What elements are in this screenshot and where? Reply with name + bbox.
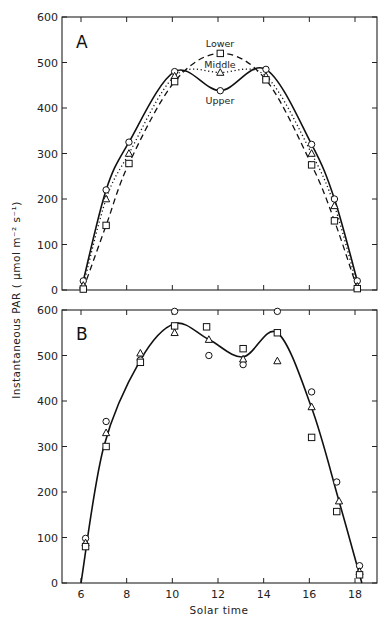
x-tick-label: 16 (302, 588, 316, 601)
y-tick-label: 200 (37, 193, 58, 206)
y-tick-label: 600 (37, 304, 58, 317)
circle-marker (206, 352, 212, 358)
x-tick-label: 12 (211, 588, 225, 601)
y-tick-label: 400 (37, 102, 58, 115)
x-tick-label: 6 (78, 588, 85, 601)
y-tick-label: 100 (37, 532, 58, 545)
triangle-marker (137, 349, 144, 356)
square-marker (308, 434, 314, 440)
triangle-marker (308, 403, 315, 410)
y-tick-label: 0 (51, 577, 58, 590)
square-marker (356, 572, 362, 578)
square-marker (331, 218, 337, 224)
triangle-marker (125, 150, 132, 157)
panel-a: 0100200300400500600 (37, 11, 377, 297)
circle-marker (274, 308, 280, 314)
square-marker (103, 443, 109, 449)
series-markers-lower (82, 323, 362, 578)
series-line-fitted-curve (81, 323, 362, 583)
annotation-lower: Lower (206, 38, 235, 49)
y-tick-label: 200 (37, 486, 58, 499)
square-marker (137, 359, 143, 365)
y-tick-label: 400 (37, 395, 58, 408)
square-marker (82, 543, 88, 549)
series-markers-middle (82, 329, 363, 574)
circle-marker (171, 308, 177, 314)
annotation-middle: Middle (204, 59, 236, 70)
square-marker (334, 508, 340, 514)
square-marker (80, 286, 86, 292)
circle-marker (103, 418, 109, 424)
square-marker (203, 324, 209, 330)
x-tick-label: 10 (165, 588, 179, 601)
y-tick-label: 600 (37, 11, 58, 24)
square-marker (171, 78, 177, 84)
par-chart: 0100200300400500600 01002003004005006006… (0, 0, 389, 630)
square-marker (103, 222, 109, 228)
x-tick-label: 14 (257, 588, 271, 601)
square-marker (308, 162, 314, 168)
plot-frame (62, 17, 377, 290)
circle-marker (308, 141, 314, 147)
triangle-marker (171, 329, 178, 336)
square-marker (240, 345, 246, 351)
circle-marker (334, 479, 340, 485)
x-axis-title: Solar time (190, 604, 249, 616)
triangle-marker (274, 357, 281, 364)
x-tick-label: 18 (348, 588, 362, 601)
y-tick-label: 0 (51, 284, 58, 297)
triangle-marker (335, 497, 342, 504)
square-marker (354, 285, 360, 291)
circle-marker (126, 139, 132, 145)
panel-b: 0100200300400500600681012141618 (37, 304, 377, 601)
circle-marker (217, 88, 223, 94)
circle-marker (308, 389, 314, 395)
panel-a-label: A (76, 32, 88, 52)
square-marker (274, 330, 280, 336)
y-tick-label: 300 (37, 148, 58, 161)
y-tick-label: 500 (37, 57, 58, 70)
square-marker (217, 50, 223, 56)
square-marker (126, 160, 132, 166)
x-tick-label: 8 (123, 588, 130, 601)
y-axis-title: Instantaneous PAR ( µmol m⁻² s⁻¹) (10, 201, 22, 399)
circle-marker (103, 187, 109, 193)
square-marker (263, 77, 269, 83)
y-tick-label: 100 (37, 239, 58, 252)
square-marker (171, 323, 177, 329)
series-markers-lower (80, 50, 360, 292)
y-tick-label: 500 (37, 350, 58, 363)
panel-b-label: B (76, 324, 88, 344)
annotation-upper: Upper (206, 95, 235, 106)
y-tick-label: 300 (37, 441, 58, 454)
